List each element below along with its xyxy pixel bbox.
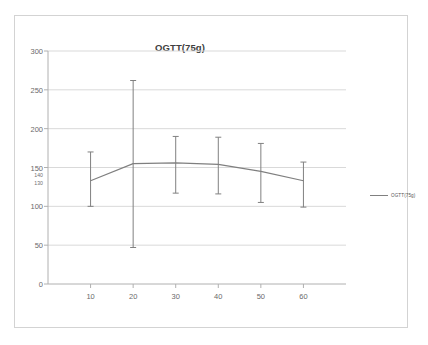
chart-frame: OGTT(75g) OGTT(75g) 05010015020025030013…: [14, 15, 408, 328]
y-axis-tick-label: 140: [17, 172, 43, 178]
x-axis-tick-label: 30: [161, 292, 191, 301]
y-axis-tick-label: 50: [17, 241, 43, 250]
y-axis-tick-label: 200: [17, 124, 43, 133]
legend-line-swatch: [370, 195, 388, 196]
x-axis-tick-label: 10: [76, 292, 106, 301]
y-axis-tick-label: 0: [17, 280, 43, 289]
y-axis-tick-label: 150: [17, 163, 43, 172]
legend-item-label: OGTT(75g): [391, 193, 415, 198]
chart-plot-area: [15, 16, 409, 329]
x-axis-tick-label: 50: [246, 292, 276, 301]
chart-legend: OGTT(75g): [370, 193, 415, 198]
y-axis-tick-label: 300: [17, 47, 43, 56]
y-axis-tick-label: 250: [17, 85, 43, 94]
x-axis-tick-label: 20: [118, 292, 148, 301]
x-axis-tick-label: 40: [203, 292, 233, 301]
y-axis-tick-label: 100: [17, 202, 43, 211]
x-axis-tick-label: 60: [288, 292, 318, 301]
y-axis-tick-label: 130: [17, 180, 43, 186]
